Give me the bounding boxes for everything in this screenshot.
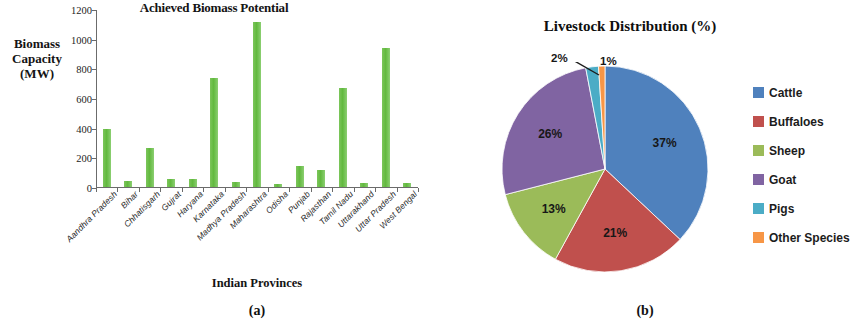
pie-callout-pigs: 2%: [551, 52, 568, 64]
bar-uttar-pradesh: [382, 48, 390, 187]
bar-gujrat: [167, 179, 175, 187]
legend-label: Buffaloes: [769, 115, 824, 129]
legend-item-cattle[interactable]: Cattle: [753, 78, 865, 107]
legend-item-pigs[interactable]: Pigs: [753, 194, 865, 223]
y-tick-mark: [92, 10, 96, 11]
y-tick-label: 1000: [71, 34, 92, 45]
bar-rajasthan: [317, 170, 325, 187]
pie-chart-graphic: 37%21%13%26%: [495, 62, 735, 282]
legend-swatch-icon: [753, 232, 764, 243]
pie-value-label-sheep: 13%: [542, 202, 566, 216]
legend-swatch-icon: [753, 116, 764, 127]
pie-value-label-cattle: 37%: [653, 136, 677, 150]
y-tick-label: 400: [76, 123, 92, 134]
bar-chhatisgarh: [146, 148, 154, 187]
x-axis-line: [96, 187, 418, 188]
y-tick-1000: 1000: [96, 40, 97, 41]
y-tick-200: 200: [96, 158, 97, 159]
legend-item-buffaloes[interactable]: Buffaloes: [753, 107, 865, 136]
bar-bihar: [124, 181, 132, 187]
pie-slices: [502, 66, 708, 272]
legend-item-other-species[interactable]: Other Species: [753, 223, 865, 252]
y-axis-label-line-1: Biomass: [2, 36, 72, 51]
pie-chart-panel: Livestock Distribution (%) 37%21%13%26% …: [440, 0, 865, 327]
bar-karnataka: [210, 78, 218, 187]
y-axis-label-line-2: Capacity: [2, 51, 72, 66]
pie-chart-title: Livestock Distribution (%): [480, 18, 780, 35]
y-tick-label: 200: [76, 153, 92, 164]
bar-haryana: [189, 179, 197, 187]
legend-label: Goat: [769, 173, 796, 187]
bar-madhya-pradesh: [232, 182, 240, 187]
legend-label: Other Species: [769, 231, 850, 245]
pie-callout-other-species: 1%: [600, 55, 617, 67]
bar-uttarakhand: [360, 183, 368, 187]
y-tick-label: 0: [87, 183, 92, 194]
panel-a-caption: (a): [96, 303, 418, 319]
bar-aandhra-pradesh: [103, 129, 111, 187]
y-tick-label: 1200: [71, 5, 92, 16]
y-tick-400: 400: [96, 129, 97, 130]
y-tick-mark: [92, 99, 96, 100]
pie-chart-legend: CattleBuffaloesSheepGoatPigsOther Specie…: [753, 78, 865, 252]
legend-label: Cattle: [769, 86, 802, 100]
figure-container: Biomass Capacity (MW) Achieved Biomass P…: [0, 0, 865, 327]
legend-label: Sheep: [769, 144, 805, 158]
legend-swatch-icon: [753, 87, 764, 98]
y-axis-label-line-3: (MW): [2, 66, 72, 81]
y-tick-mark: [92, 40, 96, 41]
bar-chart-x-tick-labels: Aandhra PradeshBiharChhatisgarhGujratHar…: [96, 189, 426, 271]
legend-swatch-icon: [753, 174, 764, 185]
legend-item-sheep[interactable]: Sheep: [753, 136, 865, 165]
bar-west-bengal: [403, 183, 411, 187]
y-tick-mark: [92, 129, 96, 130]
y-tick-800: 800: [96, 69, 97, 70]
legend-item-goat[interactable]: Goat: [753, 165, 865, 194]
bar-chart-x-axis-label: Indian Provinces: [96, 276, 418, 291]
x-tick-label-odisha: Odisha: [264, 189, 291, 216]
panel-b-caption: (b): [555, 303, 735, 319]
bar-punjab: [296, 166, 304, 187]
pie-value-label-goat: 26%: [538, 127, 562, 141]
y-tick-mark: [92, 69, 96, 70]
bar-chart-y-axis-label: Biomass Capacity (MW): [2, 36, 72, 81]
bar-chart-panel: Biomass Capacity (MW) Achieved Biomass P…: [0, 0, 440, 327]
legend-swatch-icon: [753, 203, 764, 214]
bar-maharashtra: [253, 22, 261, 187]
y-tick-1200: 1200: [96, 10, 97, 11]
legend-label: Pigs: [769, 202, 794, 216]
y-tick-mark: [92, 158, 96, 159]
y-tick-label: 800: [76, 64, 92, 75]
x-tick-label-aandhra-pradesh: Aandhra Pradesh: [64, 189, 119, 244]
bar-chart-plot-area: 020040060080010001200: [96, 10, 418, 188]
legend-swatch-icon: [753, 145, 764, 156]
bar-odisha: [274, 184, 282, 187]
pie-value-label-buffaloes: 21%: [603, 226, 627, 240]
y-tick-600: 600: [96, 99, 97, 100]
bar-tamil-nadu: [339, 88, 347, 187]
y-tick-label: 600: [76, 94, 92, 105]
